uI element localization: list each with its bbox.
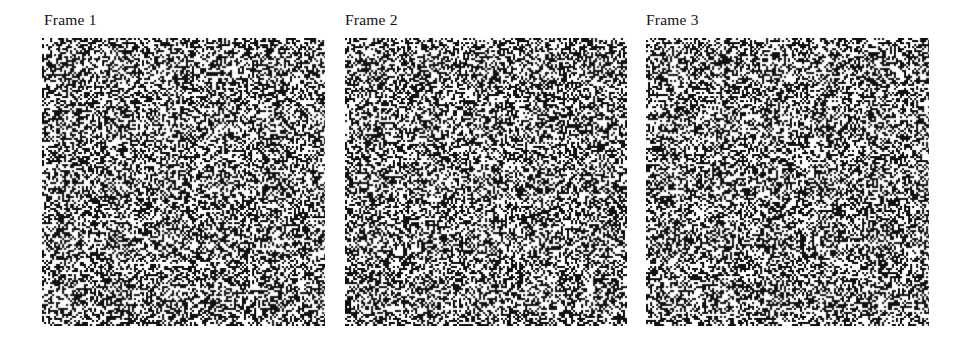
noise-image-3 (646, 38, 929, 326)
frame-label-1: Frame 1 (44, 12, 97, 28)
frame-label-2: Frame 2 (345, 12, 398, 28)
noise-image-1 (42, 38, 325, 326)
noise-image-2 (345, 38, 627, 326)
figure-root: Frame 1 Frame 2 Frame 3 (0, 0, 960, 341)
frame-label-3: Frame 3 (646, 12, 699, 28)
